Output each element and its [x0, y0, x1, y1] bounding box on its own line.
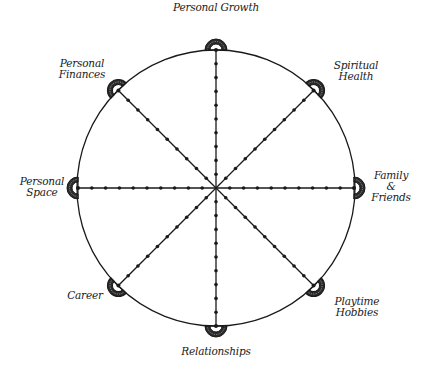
scale-tick	[214, 131, 218, 135]
spoke-personal-finances	[116, 88, 216, 188]
scale-tick	[214, 283, 218, 287]
scale-tick	[338, 186, 342, 190]
label-personal-finances: Personal Finances	[52, 58, 112, 80]
scale-tick	[156, 245, 160, 249]
spoke-playtime-hobbies	[216, 188, 316, 288]
scale-tick	[195, 206, 199, 210]
scale-tick	[214, 255, 218, 259]
scale-tick	[195, 167, 199, 171]
scale-tick	[253, 147, 257, 151]
scale-tick	[187, 186, 191, 190]
scale-tick	[214, 241, 218, 245]
scale-tick	[214, 228, 218, 232]
scale-tick	[131, 186, 135, 190]
scale-tick	[242, 186, 246, 190]
label-line: Finances	[52, 69, 112, 80]
scale-tick	[214, 159, 218, 163]
scale-tick	[146, 118, 150, 122]
scale-tick	[214, 200, 218, 204]
scale-tick	[175, 225, 179, 229]
scale-tick	[214, 310, 218, 314]
scale-tick	[90, 186, 94, 190]
scale-tick	[214, 297, 218, 301]
scale-tick	[297, 186, 301, 190]
scale-tick	[311, 186, 315, 190]
label-line: Relationships	[166, 346, 266, 357]
scale-tick	[146, 255, 150, 259]
label-playtime-hobbies: Playtime Hobbies	[322, 296, 392, 318]
scale-tick	[214, 214, 218, 218]
scale-tick	[214, 62, 218, 66]
scale-tick	[104, 186, 108, 190]
spoke-family-friends	[216, 186, 356, 190]
spoke-personal-space	[76, 186, 216, 190]
scale-tick	[269, 186, 273, 190]
scale-tick	[234, 167, 238, 171]
scale-tick	[224, 196, 228, 200]
scale-tick	[273, 128, 277, 132]
scale-tick	[283, 255, 287, 259]
label-line: Hobbies	[322, 307, 392, 318]
scale-tick	[214, 269, 218, 273]
scale-tick	[214, 172, 218, 176]
scale-tick	[126, 274, 130, 278]
scale-tick	[136, 108, 140, 112]
label-line: Health	[326, 71, 386, 82]
scale-tick	[136, 264, 140, 268]
scale-tick	[200, 186, 204, 190]
label-relationships: Relationships	[166, 346, 266, 357]
scale-tick	[214, 103, 218, 107]
label-line: Friends	[366, 192, 416, 203]
label-line: Personal Growth	[156, 2, 276, 13]
scale-tick	[145, 186, 149, 190]
scale-tick	[273, 245, 277, 249]
scale-tick	[234, 206, 238, 210]
scale-tick	[325, 186, 329, 190]
label-family-friends: Family & Friends	[366, 170, 416, 203]
spoke-career	[116, 188, 216, 288]
scale-tick	[118, 186, 122, 190]
scale-tick	[126, 98, 130, 102]
scale-tick	[302, 98, 306, 102]
scale-tick	[292, 108, 296, 112]
scale-tick	[256, 186, 260, 190]
scale-tick	[214, 76, 218, 80]
scale-tick	[165, 235, 169, 239]
spoke-relationships	[214, 188, 218, 328]
scale-tick	[214, 145, 218, 149]
scale-tick	[243, 215, 247, 219]
scale-tick	[253, 225, 257, 229]
scale-tick	[263, 137, 267, 141]
spoke-personal-growth	[214, 48, 218, 188]
scale-tick	[283, 186, 287, 190]
label-line: Space	[14, 187, 70, 198]
scale-tick	[165, 137, 169, 141]
scale-tick	[243, 157, 247, 161]
label-personal-growth: Personal Growth	[156, 2, 276, 13]
label-spiritual-health: Spiritual Health	[326, 60, 386, 82]
scale-tick	[185, 157, 189, 161]
scale-tick	[156, 128, 160, 132]
label-personal-space: Personal Space	[14, 176, 70, 198]
scale-tick	[159, 186, 163, 190]
scale-tick	[224, 176, 228, 180]
scale-tick	[173, 186, 177, 190]
scale-tick	[185, 215, 189, 219]
scale-tick	[214, 117, 218, 121]
label-line: Career	[60, 290, 110, 301]
scale-tick	[302, 274, 306, 278]
scale-tick	[175, 147, 179, 151]
scale-tick	[228, 186, 232, 190]
spoke-spiritual-health	[216, 88, 316, 188]
scale-tick	[283, 118, 287, 122]
scale-tick	[292, 264, 296, 268]
label-career: Career	[60, 290, 110, 301]
scale-tick	[204, 176, 208, 180]
scale-tick	[263, 235, 267, 239]
scale-tick	[214, 90, 218, 94]
scale-tick	[204, 196, 208, 200]
